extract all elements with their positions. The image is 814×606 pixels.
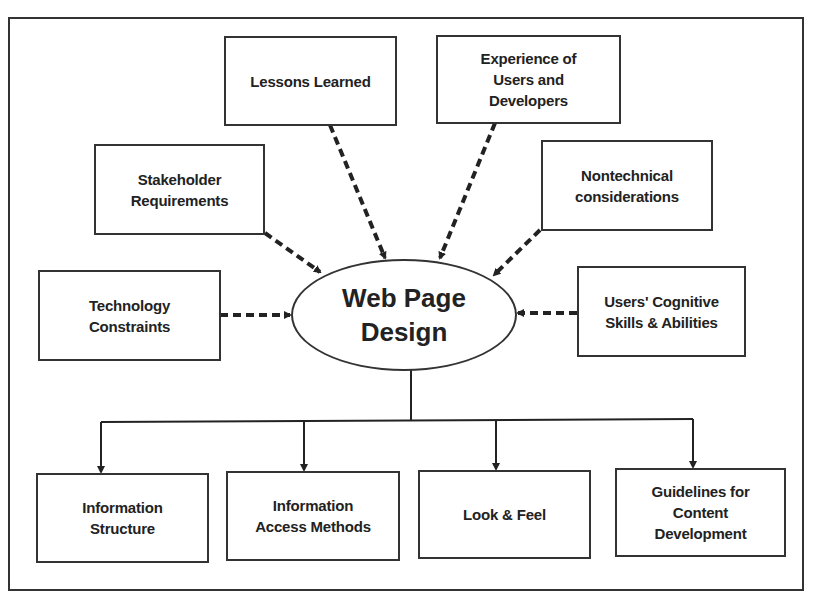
output-node-guidelines-content-development: Guidelines for Content Development — [615, 468, 786, 557]
input-node-stakeholder-requirements: Stakeholder Requirements — [94, 144, 265, 235]
output-node-information-access-methods: Information Access Methods — [226, 471, 400, 561]
input-node-lessons-learned: Lessons Learned — [224, 36, 397, 126]
output-node-look-and-feel: Look & Feel — [418, 470, 591, 559]
center-node-web-page-design: Web Page Design — [291, 259, 517, 371]
output-node-information-structure: Information Structure — [36, 473, 209, 563]
input-node-users-cognitive-skills: Users' Cognitive Skills & Abilities — [577, 266, 746, 357]
input-node-technology-constraints: Technology Constraints — [38, 270, 221, 361]
input-node-experience: Experience of Users and Developers — [436, 35, 621, 124]
input-node-nontechnical-considerations: Nontechnical considerations — [541, 140, 713, 231]
